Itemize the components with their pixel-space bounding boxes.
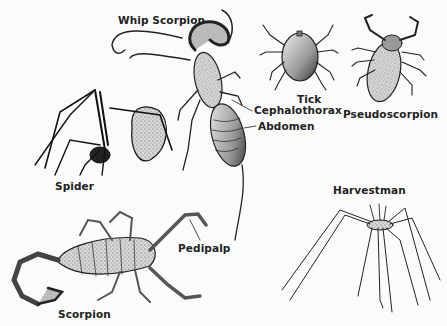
pseudoscorpion-drawing xyxy=(352,15,426,105)
harvestman-label: Harvestman xyxy=(333,184,406,196)
pseudoscorpion-label: Pseudoscorpion xyxy=(343,108,438,120)
arachnid-illustration: Whip Scorpion Tick Pseudoscorpion Spider… xyxy=(0,0,447,326)
scorpion-drawing xyxy=(14,212,206,304)
spider-label: Spider xyxy=(55,180,94,192)
abdomen-label: Abdomen xyxy=(258,120,315,132)
cephalothorax-label: Cephalothorax xyxy=(254,104,342,116)
whip-scorpion-label: Whip Scorpion xyxy=(118,14,205,26)
tick-drawing xyxy=(260,25,338,90)
scorpion-label: Scorpion xyxy=(58,308,111,320)
harvestman-drawing xyxy=(282,204,440,312)
pedipalp-label: Pedipalp xyxy=(178,242,230,254)
spider-drawing xyxy=(35,90,172,175)
